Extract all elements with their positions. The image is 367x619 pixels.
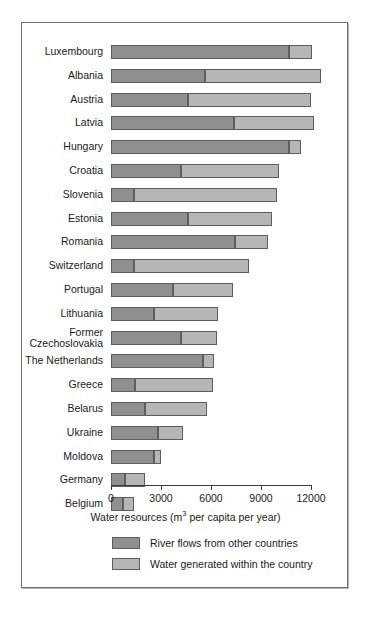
bar-row: Luxembourg bbox=[22, 43, 349, 61]
bar-segment-within bbox=[145, 402, 207, 416]
x-axis-tick-label: 0 bbox=[108, 492, 114, 504]
bar-segment-river bbox=[111, 378, 135, 392]
bar-row: Austria bbox=[22, 91, 349, 109]
stacked-bar bbox=[111, 402, 207, 416]
bar-segment-river bbox=[111, 450, 154, 464]
stacked-bar bbox=[111, 140, 301, 154]
stacked-bar bbox=[111, 307, 218, 321]
bar-segment-river bbox=[111, 402, 145, 416]
bar-segment-river bbox=[111, 354, 203, 368]
bar-segment-within bbox=[154, 307, 217, 321]
bar-segment-river bbox=[111, 212, 188, 226]
x-axis-tick bbox=[311, 485, 312, 490]
stacked-bar bbox=[111, 69, 321, 83]
stacked-bar bbox=[111, 259, 249, 273]
category-label: Albania bbox=[22, 70, 103, 82]
bar-segment-within bbox=[235, 235, 268, 249]
chart-legend: River flows from other countriesWater ge… bbox=[22, 535, 349, 583]
x-axis-tick-label: 9000 bbox=[249, 492, 272, 504]
bar-segment-river bbox=[111, 93, 188, 107]
bar-segment-river bbox=[111, 140, 289, 154]
stacked-bar bbox=[111, 93, 311, 107]
bar-segment-within bbox=[234, 116, 314, 130]
bar-row: Lithuania bbox=[22, 305, 349, 323]
bar-segment-river bbox=[111, 307, 154, 321]
bar-row: Croatia bbox=[22, 162, 349, 180]
legend-label: Water generated within the country bbox=[150, 558, 312, 570]
stacked-bar bbox=[111, 283, 233, 297]
bar-row: Slovenia bbox=[22, 186, 349, 204]
bar-segment-within bbox=[154, 450, 161, 464]
bar-segment-within bbox=[289, 140, 301, 154]
bar-row: Former Czechoslovakia bbox=[22, 329, 349, 347]
x-axis-tick bbox=[211, 485, 212, 490]
bar-row: Belarus bbox=[22, 400, 349, 418]
category-label: Hungary bbox=[22, 141, 103, 153]
x-axis-tick-label: 12000 bbox=[296, 492, 325, 504]
bar-segment-river bbox=[111, 235, 235, 249]
legend-item: River flows from other countries bbox=[112, 535, 298, 551]
stacked-bar bbox=[111, 45, 312, 59]
stacked-bar bbox=[111, 212, 272, 226]
bar-row: Estonia bbox=[22, 210, 349, 228]
category-label: Estonia bbox=[22, 213, 103, 225]
stacked-bar bbox=[111, 354, 214, 368]
bar-segment-within bbox=[181, 331, 217, 345]
category-label: Greece bbox=[22, 379, 103, 391]
bar-segment-river bbox=[111, 259, 134, 273]
bar-row: Switzerland bbox=[22, 257, 349, 275]
bar-segment-within bbox=[205, 69, 321, 83]
bar-row: Latvia bbox=[22, 114, 349, 132]
category-label: Croatia bbox=[22, 165, 103, 177]
category-label: Moldova bbox=[22, 451, 103, 463]
category-label: Former Czechoslovakia bbox=[22, 326, 103, 349]
bar-row: The Netherlands bbox=[22, 352, 349, 370]
x-axis-title-post: per capita per year) bbox=[187, 511, 281, 523]
bar-segment-within bbox=[173, 283, 233, 297]
x-axis-tick bbox=[161, 485, 162, 490]
category-label: Portugal bbox=[22, 284, 103, 296]
stacked-bar bbox=[111, 188, 277, 202]
bar-segment-within bbox=[203, 354, 215, 368]
bar-segment-within bbox=[158, 426, 183, 440]
bar-row: Ukraine bbox=[22, 424, 349, 442]
stacked-bar bbox=[111, 116, 314, 130]
bar-segment-river bbox=[111, 331, 181, 345]
stacked-bar bbox=[111, 426, 183, 440]
bar-segment-river bbox=[111, 45, 289, 59]
x-axis-title: Water resources (m3 per capita per year) bbox=[22, 509, 349, 523]
category-label: Latvia bbox=[22, 118, 103, 130]
stacked-bar bbox=[111, 235, 268, 249]
bar-segment-within bbox=[188, 93, 311, 107]
bar-segment-within bbox=[188, 212, 272, 226]
legend-swatch-river bbox=[112, 537, 140, 549]
x-axis-title-pre: Water resources (m bbox=[91, 511, 183, 523]
bar-row: Romania bbox=[22, 233, 349, 251]
bar-row: Portugal bbox=[22, 281, 349, 299]
bar-segment-river bbox=[111, 164, 181, 178]
bar-row: Albania bbox=[22, 67, 349, 85]
bar-row: Moldova bbox=[22, 448, 349, 466]
category-label: Belarus bbox=[22, 403, 103, 415]
category-label: Luxembourg bbox=[22, 46, 103, 58]
legend-label: River flows from other countries bbox=[150, 537, 298, 549]
bar-segment-river bbox=[111, 426, 158, 440]
bar-segment-within bbox=[134, 259, 249, 273]
chart-figure: LuxembourgAlbaniaAustriaLatviaHungaryCro… bbox=[21, 22, 348, 588]
bar-segment-river bbox=[111, 116, 234, 130]
stacked-bar bbox=[111, 331, 217, 345]
legend-item: Water generated within the country bbox=[112, 556, 312, 572]
bar-segment-within bbox=[134, 188, 277, 202]
category-label: The Netherlands bbox=[22, 356, 103, 368]
bar-segment-within bbox=[181, 164, 279, 178]
stacked-bar bbox=[111, 164, 279, 178]
bar-segment-river bbox=[111, 283, 173, 297]
category-label: Romania bbox=[22, 237, 103, 249]
bar-row: Greece bbox=[22, 376, 349, 394]
x-axis-tick-label: 3000 bbox=[149, 492, 172, 504]
x-axis-tick bbox=[261, 485, 262, 490]
bar-segment-within bbox=[135, 378, 213, 392]
category-label: Ukraine bbox=[22, 427, 103, 439]
x-axis-tick bbox=[111, 485, 112, 490]
bar-row: Hungary bbox=[22, 138, 349, 156]
